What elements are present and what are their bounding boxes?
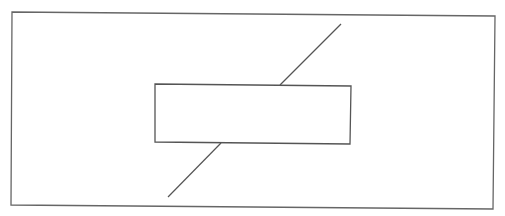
diagonal-line-upper bbox=[280, 24, 341, 85]
inner-box bbox=[155, 84, 351, 144]
diagonal-line-lower bbox=[168, 143, 221, 197]
diagram-canvas bbox=[0, 0, 505, 216]
